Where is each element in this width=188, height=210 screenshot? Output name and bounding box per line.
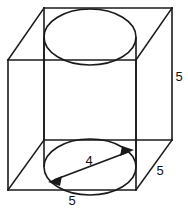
cube-edge-depth-top-right (136, 8, 172, 60)
cube-edge-depth-top-left (8, 8, 44, 60)
diameter-label: 4 (85, 153, 92, 168)
cylinder-top (44, 9, 136, 65)
cube-front-face (8, 60, 136, 190)
cube-edge-depth-bottom-left (8, 140, 44, 190)
cube-depth-label: 5 (156, 163, 163, 178)
cube-height-label: 5 (175, 69, 182, 84)
cube-edge-depth-bottom-right (136, 140, 172, 190)
figure-canvas: 4 5 5 5 (0, 0, 188, 210)
geometry-figure: 4 5 5 5 (0, 0, 188, 210)
cylinder-top-ellipse (44, 9, 136, 65)
cube-back-face (44, 8, 172, 140)
diameter-dimension: 4 (48, 146, 134, 186)
cube-width-label: 5 (68, 193, 75, 208)
